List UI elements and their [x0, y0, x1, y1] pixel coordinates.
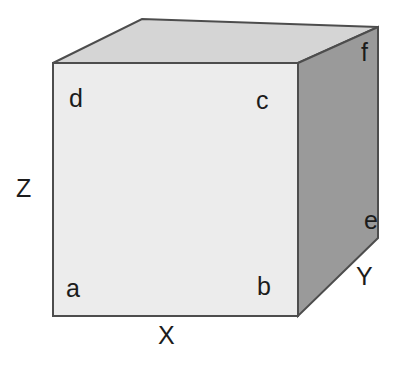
vertex-label-f: f	[361, 40, 368, 65]
vertex-label-a: a	[66, 276, 80, 301]
vertex-label-e: e	[364, 208, 378, 233]
axis-label-z: Z	[16, 176, 31, 201]
cube-drawing	[0, 0, 403, 369]
cube-diagram-figure: d c a b f e Z X Y	[0, 0, 403, 369]
vertex-label-d: d	[69, 86, 83, 111]
axis-label-y: Y	[356, 264, 373, 289]
axis-label-x: X	[158, 323, 175, 348]
vertex-label-b: b	[257, 274, 271, 299]
vertex-label-c: c	[256, 88, 269, 113]
